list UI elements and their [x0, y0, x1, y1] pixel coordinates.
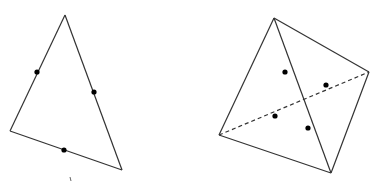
tetrahedron-edge-solid: [219, 18, 274, 135]
tetrahedron-edge-solid: [274, 18, 331, 173]
tetrahedron-point: [272, 113, 277, 118]
tetrahedron-edge-solid: [274, 18, 369, 72]
tetrahedron-figure: [219, 18, 369, 173]
tetrahedron-point: [323, 82, 328, 87]
diagram-canvas: [0, 0, 376, 182]
triangle-point: [61, 147, 66, 152]
geometry-diagram: [0, 0, 376, 182]
triangle-figure: [10, 15, 122, 170]
tetrahedron-point: [282, 69, 287, 74]
tetrahedron-edge-dashed: [219, 72, 369, 135]
triangle-point: [34, 69, 39, 74]
stray-tick-mark: [70, 177, 71, 181]
tetrahedron-point: [305, 125, 310, 130]
triangle-point: [91, 89, 96, 94]
tetrahedron-edge-solid: [331, 72, 369, 173]
tetrahedron-edge-solid: [219, 135, 331, 173]
